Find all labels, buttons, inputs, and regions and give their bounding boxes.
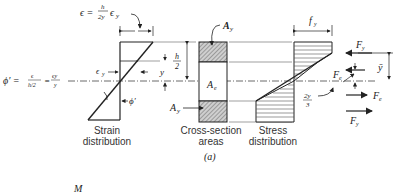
- svg-text:e: e: [339, 75, 342, 81]
- svg-text:2y: 2y: [304, 92, 312, 100]
- h-over-2-num: h: [175, 52, 179, 61]
- stress-caption-2: distribution: [249, 136, 297, 147]
- svg-text:y: y: [355, 121, 359, 127]
- strain-caption-1: Strain: [94, 125, 120, 136]
- svg-text:A: A: [222, 20, 230, 31]
- svg-text:y: y: [101, 71, 105, 77]
- ybar-dimension: [343, 53, 393, 89]
- svg-text:y: y: [176, 107, 181, 115]
- svg-text:ϵ: ϵ: [110, 7, 115, 18]
- svg-text:f: f: [309, 15, 313, 26]
- epsilon-equation: ϵ = h 2y ϵ y: [80, 3, 120, 21]
- svg-text:y: y: [313, 21, 317, 27]
- svg-text:A: A: [206, 79, 214, 90]
- svg-text:ϵ =: ϵ =: [80, 7, 93, 18]
- eps-y-label: ϵ: [96, 67, 100, 76]
- strain-caption-2: distribution: [83, 136, 131, 147]
- stress-caption-1: Stress: [259, 125, 287, 136]
- svg-text:ȳ: ȳ: [377, 62, 383, 73]
- svg-text:y: y: [53, 82, 57, 88]
- svg-text:y: y: [115, 12, 120, 20]
- elastic-plastic-beam-diagram: ϵ = h 2y ϵ y h 2 y ϵ y ϕ′ ϕ′ = ϵ h/2 = ϵ…: [0, 0, 396, 193]
- svg-text:3: 3: [305, 101, 310, 109]
- curvature-equation: ϕ′ = ϵ h/2 = ϵy y: [3, 73, 60, 88]
- svg-text:h: h: [101, 3, 105, 11]
- cross-section: [183, 25, 227, 122]
- svg-text:ϵy: ϵy: [52, 73, 57, 79]
- force-arrows: [346, 53, 372, 111]
- svg-text:=: =: [44, 76, 50, 86]
- svg-text:2y: 2y: [98, 13, 106, 21]
- phi-prime-label: ϕ′: [129, 96, 137, 106]
- figure-label: (a): [204, 151, 216, 163]
- moment-label: M: [73, 183, 83, 193]
- svg-text:ϵ: ϵ: [31, 73, 34, 79]
- stress-distribution: [256, 25, 333, 122]
- h-over-2-den: 2: [175, 62, 179, 71]
- y-label: y: [159, 67, 164, 77]
- cross-section-caption-2: areas: [198, 136, 223, 147]
- cross-section-caption-1: Cross-section: [180, 125, 241, 136]
- svg-text:y: y: [229, 25, 234, 33]
- svg-text:e: e: [214, 85, 217, 91]
- svg-text:h/2: h/2: [28, 82, 36, 88]
- svg-text:ϕ′ =: ϕ′ =: [3, 75, 20, 86]
- svg-text:A: A: [169, 102, 177, 113]
- svg-text:y: y: [361, 45, 365, 51]
- svg-text:e: e: [379, 96, 382, 102]
